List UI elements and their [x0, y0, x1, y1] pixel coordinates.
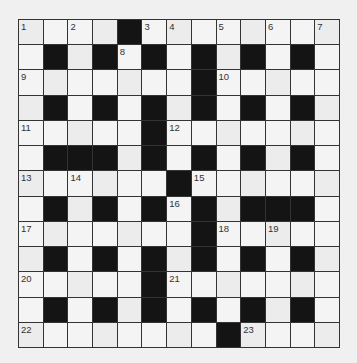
answer-cell[interactable]: [315, 146, 339, 170]
answer-cell[interactable]: [291, 20, 315, 44]
answer-cell[interactable]: 18: [217, 222, 241, 246]
answer-cell[interactable]: [118, 323, 142, 347]
answer-cell[interactable]: 21: [167, 272, 191, 296]
answer-cell[interactable]: [217, 272, 241, 296]
answer-cell[interactable]: [192, 323, 216, 347]
answer-cell[interactable]: 11: [19, 121, 43, 145]
answer-cell[interactable]: [142, 222, 166, 246]
answer-cell[interactable]: [266, 247, 290, 271]
answer-cell[interactable]: [93, 171, 117, 195]
answer-cell[interactable]: [217, 45, 241, 69]
answer-cell[interactable]: [93, 323, 117, 347]
answer-cell[interactable]: [167, 146, 191, 170]
answer-cell[interactable]: [315, 70, 339, 94]
answer-cell[interactable]: [68, 197, 92, 221]
answer-cell[interactable]: [68, 45, 92, 69]
answer-cell[interactable]: [167, 323, 191, 347]
answer-cell[interactable]: [266, 70, 290, 94]
answer-cell[interactable]: [93, 272, 117, 296]
answer-cell[interactable]: [68, 70, 92, 94]
answer-cell[interactable]: [291, 70, 315, 94]
answer-cell[interactable]: [19, 45, 43, 69]
answer-cell[interactable]: [68, 247, 92, 271]
answer-cell[interactable]: [217, 197, 241, 221]
answer-cell[interactable]: [93, 20, 117, 44]
answer-cell[interactable]: [118, 197, 142, 221]
answer-cell[interactable]: [291, 222, 315, 246]
answer-cell[interactable]: [19, 96, 43, 120]
answer-cell[interactable]: [241, 121, 265, 145]
answer-cell[interactable]: 13: [19, 171, 43, 195]
answer-cell[interactable]: [217, 146, 241, 170]
answer-cell[interactable]: 22: [19, 323, 43, 347]
answer-cell[interactable]: [68, 298, 92, 322]
answer-cell[interactable]: 7: [315, 20, 339, 44]
answer-cell[interactable]: [118, 96, 142, 120]
answer-cell[interactable]: [315, 222, 339, 246]
answer-cell[interactable]: [68, 121, 92, 145]
answer-cell[interactable]: [315, 171, 339, 195]
answer-cell[interactable]: 2: [68, 20, 92, 44]
answer-cell[interactable]: 15: [192, 171, 216, 195]
answer-cell[interactable]: 12: [167, 121, 191, 145]
answer-cell[interactable]: 16: [167, 197, 191, 221]
answer-cell[interactable]: 10: [217, 70, 241, 94]
answer-cell[interactable]: [167, 298, 191, 322]
answer-cell[interactable]: [118, 70, 142, 94]
answer-cell[interactable]: 17: [19, 222, 43, 246]
answer-cell[interactable]: [142, 171, 166, 195]
answer-cell[interactable]: [315, 272, 339, 296]
answer-cell[interactable]: [291, 171, 315, 195]
answer-cell[interactable]: [266, 323, 290, 347]
answer-cell[interactable]: [217, 171, 241, 195]
answer-cell[interactable]: [44, 70, 68, 94]
answer-cell[interactable]: [217, 247, 241, 271]
answer-cell[interactable]: [266, 272, 290, 296]
answer-cell[interactable]: [241, 171, 265, 195]
answer-cell[interactable]: 3: [142, 20, 166, 44]
answer-cell[interactable]: [315, 298, 339, 322]
answer-cell[interactable]: [44, 121, 68, 145]
answer-cell[interactable]: [118, 171, 142, 195]
answer-cell[interactable]: [192, 20, 216, 44]
answer-cell[interactable]: 1: [19, 20, 43, 44]
answer-cell[interactable]: [19, 247, 43, 271]
answer-cell[interactable]: [291, 272, 315, 296]
answer-cell[interactable]: [118, 121, 142, 145]
answer-cell[interactable]: 8: [118, 45, 142, 69]
answer-cell[interactable]: [241, 272, 265, 296]
answer-cell[interactable]: [118, 272, 142, 296]
answer-cell[interactable]: [44, 272, 68, 296]
answer-cell[interactable]: [167, 70, 191, 94]
answer-cell[interactable]: [167, 45, 191, 69]
answer-cell[interactable]: [68, 272, 92, 296]
answer-cell[interactable]: [118, 247, 142, 271]
answer-cell[interactable]: [93, 70, 117, 94]
answer-cell[interactable]: [266, 96, 290, 120]
answer-cell[interactable]: [291, 323, 315, 347]
answer-cell[interactable]: [167, 222, 191, 246]
answer-cell[interactable]: [44, 323, 68, 347]
answer-cell[interactable]: [93, 121, 117, 145]
answer-cell[interactable]: [68, 222, 92, 246]
answer-cell[interactable]: [19, 197, 43, 221]
answer-cell[interactable]: [167, 247, 191, 271]
answer-cell[interactable]: [68, 96, 92, 120]
answer-cell[interactable]: 14: [68, 171, 92, 195]
answer-cell[interactable]: [266, 171, 290, 195]
answer-cell[interactable]: [118, 298, 142, 322]
answer-cell[interactable]: [167, 96, 191, 120]
answer-cell[interactable]: 9: [19, 70, 43, 94]
answer-cell[interactable]: 6: [266, 20, 290, 44]
answer-cell[interactable]: [315, 197, 339, 221]
answer-cell[interactable]: [266, 121, 290, 145]
answer-cell[interactable]: 4: [167, 20, 191, 44]
answer-cell[interactable]: [217, 96, 241, 120]
answer-cell[interactable]: [217, 121, 241, 145]
answer-cell[interactable]: [266, 146, 290, 170]
answer-cell[interactable]: [315, 45, 339, 69]
answer-cell[interactable]: [118, 222, 142, 246]
answer-cell[interactable]: [192, 121, 216, 145]
answer-cell[interactable]: [291, 121, 315, 145]
answer-cell[interactable]: [68, 323, 92, 347]
